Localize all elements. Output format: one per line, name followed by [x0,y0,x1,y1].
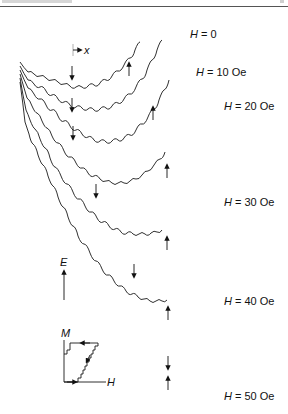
curve-label-h0: H = 0 [190,28,217,40]
curve-h40 [20,78,162,236]
energy-axis-label: E [60,256,68,268]
energy-landscape-diagram: H = 0 H = 10 Oe H = 20 Oe H = 30 Oe H = … [0,0,288,414]
curve-h50 [20,82,167,303]
curve-label-h20: H = 20 Oe [224,100,274,112]
up-arrow-markers [129,64,168,390]
inset-m-label: M [61,327,71,339]
curve-h30 [20,74,165,185]
inset-hysteresis-loop: M H [61,327,115,388]
curve-h0 [20,42,140,88]
x-axis-label: x [83,44,90,56]
curve-label-h10: H = 10 Oe [196,66,246,78]
curve-label-h50: H = 50 Oe [224,390,274,402]
x-direction-indicator: x [73,44,90,56]
down-arrow-markers [72,66,168,368]
curve-label-h30: H = 30 Oe [224,196,274,208]
inset-h-label: H [107,376,115,388]
curve-label-h40: H = 40 Oe [224,295,274,307]
energy-axis: E [60,256,68,300]
curve-h20 [20,70,169,143]
